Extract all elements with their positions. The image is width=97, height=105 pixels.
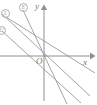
marker-l-letter: L — [4, 11, 7, 17]
diagram-svg — [0, 0, 97, 105]
origin-label: O — [36, 57, 43, 66]
y-axis-label: y — [35, 2, 39, 11]
y-axis-arrow-icon — [41, 5, 47, 11]
x-axis — [0, 53, 96, 60]
fan-line-2 — [2, 31, 81, 103]
x-axis-arrow-icon — [90, 53, 96, 60]
fan-line-3 — [23, 10, 67, 104]
y-axis — [41, 5, 47, 102]
marker-u-letter: U — [0, 28, 3, 34]
marker-e-letter: E — [22, 5, 25, 11]
marker-e: E — [19, 3, 28, 12]
fan-line-4 — [6, 17, 95, 73]
fan-line-1 — [2, 14, 90, 96]
x-axis-label: x — [83, 58, 87, 67]
marker-l: L — [1, 9, 10, 18]
line-fan — [2, 10, 95, 104]
figure-canvas: x y O L E U — [0, 0, 97, 105]
